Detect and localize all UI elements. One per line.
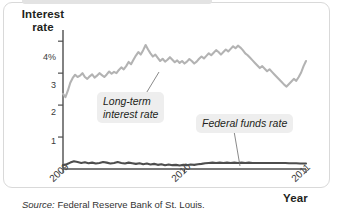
series-line-long-term-interest-rate — [63, 45, 306, 97]
annotation-federal-funds-line1: Federal funds rate — [202, 117, 287, 129]
source-label: Source: — [22, 199, 55, 210]
series-line-federal-funds-rate — [63, 161, 306, 165]
annotation-federal-funds-rate: Federal funds rate — [196, 114, 293, 133]
y-axis-ticks — [58, 41, 63, 137]
chart-plot-area — [0, 0, 337, 221]
leader-line-federal-funds — [234, 131, 240, 166]
source-note: Source: Federal Reserve Bank of St. Loui… — [22, 199, 205, 210]
annotation-long-term-line2: interest rate — [103, 108, 158, 120]
annotation-long-term-interest-rate: Long-term interest rate — [97, 92, 164, 123]
figure-container: Interestrate Year 4% 3 2 1 2009 2010 201… — [0, 0, 337, 221]
source-value: Federal Reserve Bank of St. Louis. — [55, 199, 205, 210]
annotation-long-term-line1: Long-term — [103, 95, 151, 107]
